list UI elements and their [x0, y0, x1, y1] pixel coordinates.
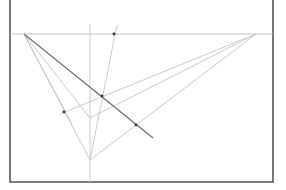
- construction-lines: [24, 25, 256, 160]
- construction-line: [60, 34, 256, 114]
- main-line-point: [135, 124, 138, 127]
- marked-points: [63, 33, 138, 127]
- construction-line: [24, 34, 72, 124]
- construction-line: [90, 34, 256, 160]
- horizon-point: [113, 33, 116, 36]
- frame-border: [10, 0, 273, 182]
- main-diagonal-line: [24, 34, 153, 138]
- construction-line: [90, 34, 256, 118]
- perspective-diagram: [0, 0, 286, 190]
- intersection-point: [101, 95, 104, 98]
- left-marked-point: [63, 111, 66, 114]
